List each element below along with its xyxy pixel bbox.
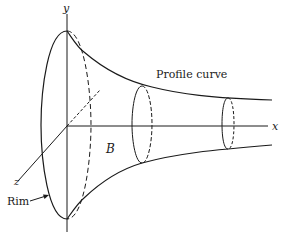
cross-section-middle-front <box>132 86 142 163</box>
profile-curve-lower <box>67 145 272 219</box>
z-axis-hidden <box>67 90 100 126</box>
x-axis-label: x <box>272 120 279 133</box>
profile-curve-label: Profile curve <box>156 68 227 81</box>
rim-leader-line <box>30 196 46 201</box>
profile-curve-upper <box>67 31 272 100</box>
cross-section-small-back <box>228 98 234 149</box>
rim-label: Rim <box>7 195 30 208</box>
cross-section-small-front <box>222 98 228 149</box>
cross-section-middle-back <box>142 86 152 163</box>
z-axis-label: z <box>13 176 20 187</box>
region-b-label: B <box>105 142 115 156</box>
rim-arrow-icon <box>43 195 49 200</box>
rim-back <box>67 31 91 219</box>
rim-front <box>41 31 67 219</box>
y-axis-label: y <box>62 2 70 15</box>
surface-of-revolution-diagram: y x z Profile curve B Rim <box>0 0 284 242</box>
